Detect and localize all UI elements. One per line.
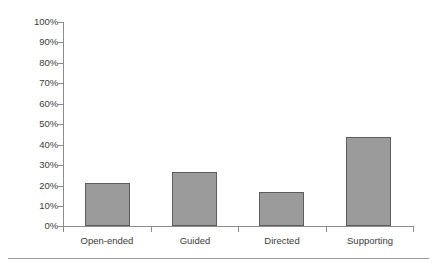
bar-guided (172, 172, 217, 226)
y-axis-tick-label-60: 60% (0, 99, 58, 109)
y-axis-tick-mark-30 (58, 165, 64, 166)
y-axis-tick-label-40: 40% (0, 140, 58, 150)
y-axis-tick-mark-50 (58, 124, 64, 125)
y-axis-tick-mark-60 (58, 104, 64, 105)
x-axis-label-supporting: Supporting (326, 235, 414, 246)
y-axis-tick-label-70: 70% (0, 78, 58, 88)
x-axis-tick-mark-1 (151, 227, 152, 232)
x-axis-tick-mark-3 (326, 227, 327, 232)
y-axis-tick-mark-40 (58, 145, 64, 146)
y-axis-tick-mark-70 (58, 83, 64, 84)
y-axis-tick-label-100: 100% (0, 17, 58, 27)
y-axis-tick-label-90: 90% (0, 37, 58, 47)
y-axis-tick-mark-20 (58, 186, 64, 187)
x-axis-tick-mark-2 (238, 227, 239, 232)
y-axis-tick-label-50: 50% (0, 119, 58, 129)
y-axis-tick-label-20: 20% (0, 181, 58, 191)
y-axis-tick-label-80: 80% (0, 58, 58, 68)
y-axis-tick-mark-100 (58, 22, 64, 23)
bar-open-ended (85, 183, 130, 226)
bar-directed (259, 192, 304, 226)
x-axis-label-guided: Guided (151, 235, 239, 246)
x-axis-tick-mark-4 (413, 227, 414, 232)
y-axis-tick-label-10: 10% (0, 201, 58, 211)
y-axis-tick-mark-90 (58, 42, 64, 43)
bar-chart-figure: 100% 90% 80% 70% 60% 50% 40% 30% 20% 10%… (0, 0, 437, 266)
y-axis-tick-label-30: 30% (0, 160, 58, 170)
x-axis-label-directed: Directed (238, 235, 326, 246)
bar-supporting (346, 137, 391, 226)
y-axis-tick-mark-10 (58, 206, 64, 207)
x-axis-tick-mark-0 (63, 227, 64, 232)
y-axis-tick-label-0: 0% (0, 221, 58, 231)
x-axis-label-open-ended: Open-ended (63, 235, 151, 246)
bottom-separator-rule (8, 258, 429, 259)
y-axis-tick-mark-80 (58, 63, 64, 64)
